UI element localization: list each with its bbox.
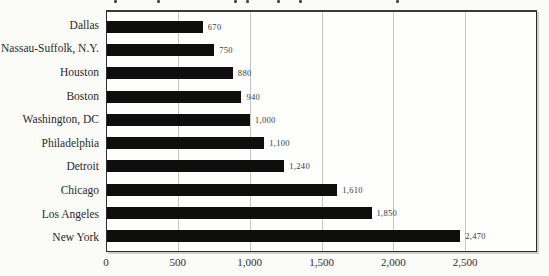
bar-rows: 6707508809401,0001,1001,2401,6101,8502,4… — [107, 12, 536, 251]
category-label: Dallas — [0, 13, 99, 37]
bar — [107, 137, 264, 149]
x-tick-label: 2,500 — [453, 256, 478, 268]
bar-row: 1,850 — [107, 201, 536, 224]
bar-value-label: 2,470 — [465, 231, 486, 241]
bar-chart: DallasNassau-Suffolk, N.Y.HoustonBostonW… — [0, 0, 549, 276]
category-label: Nassau-Suffolk, N.Y. — [0, 37, 99, 61]
bar-value-label: 1,000 — [255, 115, 276, 125]
x-tick-label: 1,000 — [237, 256, 262, 268]
bar-value-label: 1,100 — [269, 138, 290, 148]
clipped-title-glyph-fragment — [246, 0, 249, 3]
bar — [107, 21, 203, 33]
clipped-title-glyph-fragment — [114, 0, 117, 3]
category-label: Los Angeles — [0, 202, 99, 226]
bar — [107, 91, 241, 103]
category-label: Detroit — [0, 155, 99, 179]
category-label: Washington, DC — [0, 107, 99, 131]
category-label: Chicago — [0, 178, 99, 202]
x-tick-label: 1,500 — [309, 256, 334, 268]
bar-row: 1,000 — [107, 108, 536, 131]
bar — [107, 44, 214, 56]
bar-row: 880 — [107, 62, 536, 85]
clipped-title-glyph-fragment — [234, 0, 237, 3]
x-tick-label: 2,000 — [381, 256, 406, 268]
bar-row: 940 — [107, 85, 536, 108]
category-label: Philadelphia — [0, 131, 99, 155]
bar-row: 750 — [107, 38, 536, 61]
x-tick-label: 500 — [170, 256, 187, 268]
bar-value-label: 750 — [219, 45, 233, 55]
bar-row: 2,470 — [107, 225, 536, 248]
bar-value-label: 670 — [208, 22, 222, 32]
clipped-title-glyph-fragment — [277, 0, 280, 3]
plot-area: 6707508809401,0001,1001,2401,6101,8502,4… — [106, 10, 537, 252]
bar — [107, 114, 250, 126]
x-tick-label: 0 — [103, 256, 109, 268]
clipped-title-glyph-fragment — [157, 0, 160, 3]
bar-row: 1,100 — [107, 131, 536, 154]
x-axis-tick-labels: 05001,0001,5002,0002,500 — [106, 254, 537, 274]
bar-value-label: 940 — [246, 92, 260, 102]
bar — [107, 184, 337, 196]
bar-row: 1,610 — [107, 178, 536, 201]
category-axis-labels: DallasNassau-Suffolk, N.Y.HoustonBostonW… — [0, 10, 99, 252]
category-label: New York — [0, 225, 99, 249]
bar-value-label: 1,850 — [377, 208, 398, 218]
bar-value-label: 880 — [238, 68, 252, 78]
bar-row: 670 — [107, 15, 536, 38]
bar — [107, 67, 233, 79]
bar-value-label: 1,610 — [342, 185, 363, 195]
category-label: Houston — [0, 60, 99, 84]
bar-row: 1,240 — [107, 155, 536, 178]
category-label: Boston — [0, 84, 99, 108]
bar — [107, 160, 284, 172]
bar — [107, 230, 460, 242]
clipped-title-glyph-fragment — [396, 0, 399, 3]
clipped-title-glyph-fragment — [299, 0, 302, 3]
bar — [107, 207, 372, 219]
bar-value-label: 1,240 — [289, 161, 310, 171]
